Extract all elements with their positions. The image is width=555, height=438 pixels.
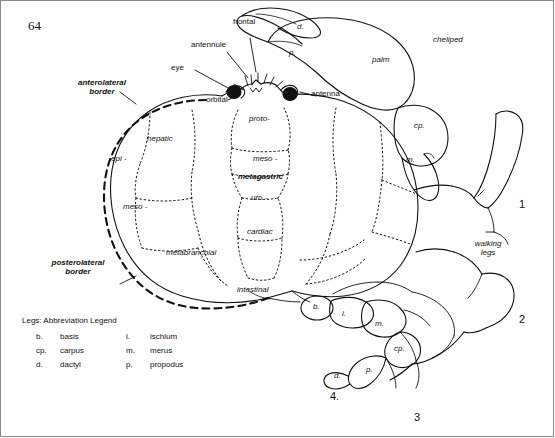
label-epi: epi -: [111, 155, 127, 164]
legend-row: d. dactyl p. propodus: [22, 360, 216, 374]
label-metabranchial: metabranchial: [166, 249, 216, 258]
label-carpus-cheliped: cp.: [414, 122, 425, 131]
label-propodus-claw: p.: [289, 49, 296, 58]
label-eye: eye: [171, 64, 184, 73]
legend-abbr-2: m.: [126, 346, 150, 360]
legend-word: carpus: [60, 346, 126, 360]
label-hepatic: hepatic: [147, 135, 173, 144]
legend-abbr: d.: [22, 360, 60, 374]
label-palm: palm: [372, 56, 389, 65]
label-anterolateral-border: anterolateral border: [70, 79, 134, 96]
legend-word: basis: [60, 332, 126, 346]
label-dactyl-claw: d.: [297, 23, 304, 32]
label-walking-legs: walking legs: [467, 240, 509, 257]
legend-word-2: merus: [150, 346, 216, 360]
legend-title: Legs: Abbreviation Legend: [22, 316, 222, 325]
label-intestinal: intestinal: [237, 286, 269, 295]
label-ischium-leg: i.: [342, 310, 346, 319]
legend-row: cp. carpus m. merus: [22, 346, 216, 360]
legend-word-2: ischium: [150, 332, 216, 346]
legend-abbr: cp.: [22, 346, 60, 360]
label-frontal: frontal: [233, 18, 255, 27]
legend-word: dactyl: [60, 360, 126, 374]
label-merus-leg: m.: [375, 320, 384, 329]
legend-abbr-2: p.: [126, 360, 150, 374]
legend-table: b. basis i. ischium cp. carpus m. merus …: [22, 332, 216, 374]
label-antennule: antennule: [191, 41, 226, 50]
legend-word-2: propodus: [150, 360, 216, 374]
label-meso-left: meso -: [123, 203, 147, 212]
label-orbital: orbital: [206, 96, 228, 105]
legend-abbr: b.: [22, 332, 60, 346]
label-posterolateral-border: posterolateral border: [40, 259, 116, 276]
label-leg-4: 4.: [330, 391, 339, 403]
label-cheliped: cheliped: [433, 36, 463, 45]
label-leg-3: 3: [414, 412, 420, 424]
label-propodus-leg: p.: [366, 366, 373, 375]
label-leg-2: 2: [519, 314, 525, 326]
legend-abbr-2: i.: [126, 332, 150, 346]
label-leg-1: 1: [519, 199, 525, 211]
label-carpus-leg: cp.: [394, 345, 405, 354]
label-meso-mid: meso -: [253, 155, 277, 164]
legend-row: b. basis i. ischium: [22, 332, 216, 346]
legend-block: Legs: Abbreviation Legend b. basis i. is…: [22, 316, 222, 374]
label-merus-cheliped: m.: [406, 156, 415, 165]
label-antenna: antenna: [311, 90, 340, 99]
label-proto: proto-: [249, 115, 270, 124]
label-uro: uro -: [251, 194, 267, 203]
label-metagastric: metagastric: [238, 173, 283, 182]
label-basis-leg: b.: [313, 303, 320, 312]
figure-page: 64: [0, 0, 555, 438]
label-cardiac: cardiac: [247, 228, 273, 237]
label-dactyl-leg: d.: [334, 372, 341, 381]
